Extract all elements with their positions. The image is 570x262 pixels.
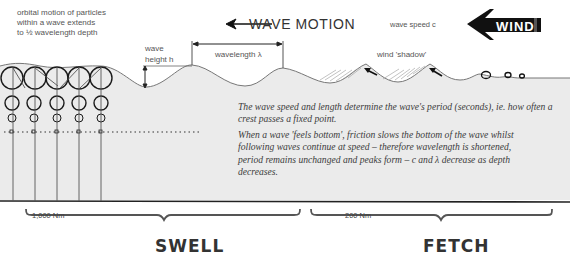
- wind-label: WIND: [496, 19, 535, 34]
- sea-bottom-line: [0, 201, 570, 202]
- fetch-distance: 200 Nm: [345, 211, 371, 220]
- wave-height-label: wave height h: [145, 43, 173, 65]
- swell-bracket: [26, 209, 300, 220]
- fetch-label: FETCH: [423, 236, 490, 256]
- orbital-motion-note: orbital motion of particles within a wav…: [17, 8, 167, 38]
- swell-distance: 1,000 Nm: [32, 211, 65, 220]
- feels-bottom-explanation: When a wave 'feels bottom', friction slo…: [238, 129, 538, 178]
- wavelength-label: wavelength λ: [215, 50, 262, 59]
- wave-speed-label: wave speed c: [390, 20, 436, 29]
- wave-motion-label: WAVE MOTION: [249, 16, 355, 32]
- period-explanation: The wave speed and length determine the …: [238, 101, 568, 126]
- wind-shadow-label: wind 'shadow': [377, 50, 426, 59]
- swell-label: SWELL: [155, 236, 224, 256]
